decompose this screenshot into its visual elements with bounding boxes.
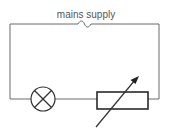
supply-label: mains supply <box>57 9 115 20</box>
variable-resistor-icon <box>96 76 148 127</box>
ac-source-icon <box>78 21 91 27</box>
right-wire <box>148 24 159 99</box>
lamp-icon <box>31 87 55 111</box>
circuit-diagram: mains supply <box>0 0 171 129</box>
arrow-head-icon <box>131 76 140 84</box>
left-wire <box>10 24 31 99</box>
circuit-wires <box>10 24 159 99</box>
